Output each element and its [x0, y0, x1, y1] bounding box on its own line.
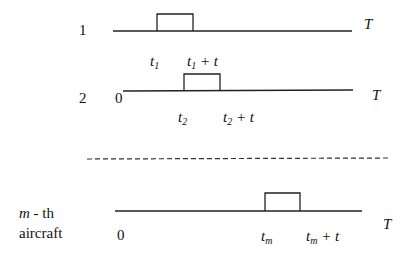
- row2-end-label: t2 + t: [223, 110, 254, 127]
- row1-start-label: t1: [150, 54, 159, 71]
- dashed-separator: [87, 158, 390, 159]
- row1-label: 1: [79, 23, 87, 38]
- row2-origin: 0: [115, 91, 123, 106]
- rowm-start-label: tm: [261, 229, 272, 246]
- rowm-end-label: tm + t: [306, 229, 339, 246]
- row2-start-label: t2: [178, 110, 187, 127]
- row2-end-T: T: [372, 88, 380, 103]
- rowm-end-T: T: [383, 217, 391, 232]
- row1-pulse-box: [157, 14, 193, 31]
- row1-end-label: t1 + t: [187, 54, 218, 71]
- row2-pulse-box: [184, 74, 220, 91]
- rowm-pulse-box: [265, 193, 300, 211]
- row2-timeline: [123, 90, 353, 91]
- rowm-label: m - th: [19, 206, 54, 221]
- rowm-label-line2: aircraft: [19, 226, 62, 241]
- row1-end-T: T: [364, 17, 372, 32]
- rowm-origin: 0: [117, 228, 125, 243]
- row2-label: 2: [79, 91, 87, 106]
- timeline-diagram: [0, 0, 413, 257]
